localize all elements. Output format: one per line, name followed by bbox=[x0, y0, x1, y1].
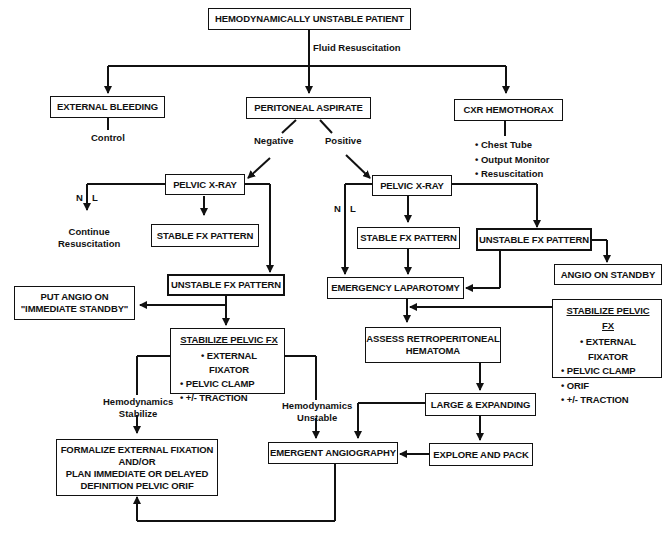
node-title: STABILIZE PELVIC FX bbox=[180, 333, 278, 347]
stabilize-item: PELVIC CLAMP bbox=[180, 377, 255, 391]
node-pelvic-xray-right: PELVIC X-RAY bbox=[372, 175, 452, 196]
node-stable-fx-pattern-left: STABLE FX PATTERN bbox=[151, 224, 259, 247]
node-pelvic-xray-left: PELVIC X-RAY bbox=[165, 174, 245, 195]
stabilize-item: EXTERNAL FIXATOR bbox=[180, 349, 278, 377]
node-stabilize-pelvic-fx-left: STABILIZE PELVIC FX EXTERNAL FIXATOR PEL… bbox=[170, 328, 285, 394]
cxr-action-item: Chest Tube bbox=[475, 138, 550, 153]
node-label: FORMALIZE EXTERNAL FIXATION bbox=[61, 444, 214, 456]
node-stabilize-pelvic-fx-right: STABILIZE PELVIC FX EXTERNAL FIXATOR PEL… bbox=[552, 299, 662, 378]
label-control: Control bbox=[91, 132, 125, 144]
stabilize-item: +/- TRACTION bbox=[180, 391, 248, 405]
node-label: CXR HEMOTHORAX bbox=[464, 104, 554, 116]
node-cxr-hemothorax: CXR HEMOTHORAX bbox=[454, 99, 563, 121]
node-angio-on-standby: ANGIO ON STANDBY bbox=[554, 264, 662, 285]
cxr-actions-list: Chest Tube Output Monitor Resuscitation bbox=[475, 138, 550, 182]
node-label: ASSESS RETROPERITONEAL bbox=[366, 333, 499, 345]
flowchart-canvas: HEMODYNAMICALLY UNSTABLE PATIENT Fluid R… bbox=[0, 0, 670, 533]
label-n-left: N bbox=[76, 192, 83, 204]
node-label: UNSTABLE FX PATTERN bbox=[479, 234, 589, 246]
node-explore-and-pack: EXPLORE AND PACK bbox=[429, 443, 533, 466]
node-large-expanding: LARGE & EXPANDING bbox=[425, 393, 536, 416]
node-label: PUT ANGIO ON bbox=[40, 291, 108, 303]
stabilize-item: PELVIC CLAMP bbox=[561, 364, 636, 379]
label-line: Hemodynamics bbox=[103, 396, 173, 408]
node-label: ANGIO ON STANDBY bbox=[561, 269, 655, 281]
label-negative: Negative bbox=[254, 135, 294, 147]
node-label: UNSTABLE FX PATTERN bbox=[171, 279, 281, 291]
node-label: PLAN IMMEDIATE OR DELAYED bbox=[66, 468, 209, 480]
node-title: STABILIZE PELVIC FX bbox=[561, 304, 655, 333]
node-label: HEMATOMA bbox=[406, 345, 460, 357]
label-line: Unstable bbox=[282, 412, 352, 424]
cxr-action-item: Output Monitor bbox=[475, 153, 550, 168]
node-label: PELVIC X-RAY bbox=[380, 180, 444, 192]
node-unstable-fx-pattern-right: UNSTABLE FX PATTERN bbox=[476, 228, 592, 251]
node-assess-retroperitoneal-hematoma: ASSESS RETROPERITONEAL HEMATOMA bbox=[365, 327, 501, 363]
node-label: EXPLORE AND PACK bbox=[433, 449, 529, 461]
label-l-right: L bbox=[350, 203, 356, 215]
stabilize-item: +/- TRACTION bbox=[561, 393, 629, 408]
label-line: Stabilize bbox=[103, 408, 173, 420]
node-label: EXTERNAL BLEEDING bbox=[57, 101, 158, 113]
node-stable-fx-pattern-right: STABLE FX PATTERN bbox=[357, 227, 460, 249]
label-hemodynamics-stabilize: Hemodynamics Stabilize bbox=[103, 396, 173, 419]
node-emergency-laparotomy: EMERGENCY LAPAROTOMY bbox=[327, 277, 464, 299]
node-put-angio-immediate-standby: PUT ANGIO ON "IMMEDIATE STANDBY" bbox=[14, 286, 135, 320]
label-continue-resuscitation: Continue Resuscitation bbox=[58, 226, 120, 249]
node-label: DEFINITION PELVIC ORIF bbox=[80, 480, 193, 492]
label-fluid-resuscitation: Fluid Resuscitation bbox=[313, 42, 401, 54]
label-positive: Positive bbox=[325, 135, 361, 147]
node-label: LARGE & EXPANDING bbox=[431, 399, 530, 411]
label-l-left: L bbox=[92, 192, 98, 204]
label-hemodynamics-unstable: Hemodynamics Unstable bbox=[282, 400, 352, 423]
label-line: Resuscitation bbox=[58, 238, 120, 250]
node-label: EMERGENCY LAPAROTOMY bbox=[331, 282, 459, 294]
node-label: "IMMEDIATE STANDBY" bbox=[21, 303, 129, 315]
node-label: EMERGENT ANGIOGRAPHY bbox=[270, 447, 396, 459]
label-n-right: N bbox=[334, 203, 341, 215]
node-external-bleeding: EXTERNAL BLEEDING bbox=[50, 96, 165, 118]
label-line: Hemodynamics bbox=[282, 400, 352, 412]
node-label: PERITONEAL ASPIRATE bbox=[254, 102, 363, 114]
node-emergent-angiography: EMERGENT ANGIOGRAPHY bbox=[268, 442, 398, 464]
node-label: STABLE FX PATTERN bbox=[157, 230, 253, 242]
stabilize-item: ORIF bbox=[561, 379, 589, 394]
node-label: HEMODYNAMICALLY UNSTABLE PATIENT bbox=[215, 13, 404, 25]
node-label: STABLE FX PATTERN bbox=[360, 232, 456, 244]
stabilize-item: EXTERNAL FIXATOR bbox=[561, 335, 655, 364]
node-unstable-fx-pattern-left: UNSTABLE FX PATTERN bbox=[167, 274, 285, 296]
cxr-action-item: Resuscitation bbox=[475, 167, 550, 182]
node-hemodynamically-unstable-patient: HEMODYNAMICALLY UNSTABLE PATIENT bbox=[208, 8, 411, 30]
node-formalize-external-fixation: FORMALIZE EXTERNAL FIXATION AND/OR PLAN … bbox=[56, 439, 218, 496]
node-peritoneal-aspirate: PERITONEAL ASPIRATE bbox=[246, 97, 371, 119]
label-line: Continue bbox=[58, 226, 120, 238]
node-label: AND/OR bbox=[119, 456, 156, 468]
node-label: PELVIC X-RAY bbox=[173, 179, 237, 191]
